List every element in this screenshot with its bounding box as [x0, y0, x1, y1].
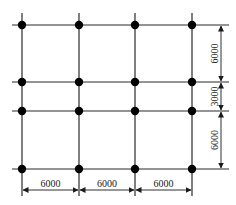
- column-node: [18, 107, 26, 115]
- column-grid-diagram: 6000 6000 6000 6000 3000 6000: [0, 0, 236, 205]
- dimension-label-h2: 6000: [97, 178, 117, 189]
- column-node: [18, 21, 26, 29]
- column-node: [188, 165, 196, 173]
- column-node: [131, 21, 139, 29]
- column-node: [188, 21, 196, 29]
- horizontal-grid-lines: [12, 25, 229, 169]
- dimension-label-v2: 3000: [209, 87, 220, 107]
- dimension-label-h3: 6000: [154, 178, 174, 189]
- dimension-label-h1: 6000: [41, 178, 61, 189]
- column-node: [75, 21, 83, 29]
- horizontal-dimension-chain: 6000 6000 6000: [23, 178, 191, 190]
- column-node: [188, 78, 196, 86]
- dimension-label-v3: 6000: [209, 130, 220, 150]
- column-node: [131, 78, 139, 86]
- column-nodes: [18, 21, 196, 173]
- dimension-label-v1: 6000: [209, 44, 220, 64]
- column-node: [131, 165, 139, 173]
- column-node: [75, 165, 83, 173]
- column-node: [75, 78, 83, 86]
- column-node: [75, 107, 83, 115]
- vertical-dimension-chain: 6000 3000 6000: [209, 26, 222, 168]
- column-node: [18, 78, 26, 86]
- column-node: [18, 165, 26, 173]
- column-node: [188, 107, 196, 115]
- column-node: [131, 107, 139, 115]
